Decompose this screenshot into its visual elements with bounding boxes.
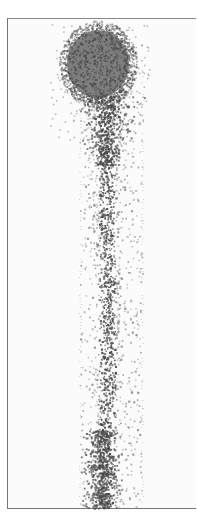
particle-image [0,0,197,515]
